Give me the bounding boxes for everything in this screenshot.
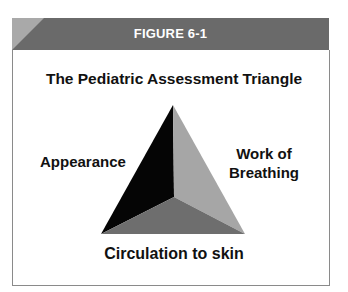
- circulation-label: Circulation to skin: [0, 244, 348, 263]
- work-of-breathing-line-2: Breathing: [229, 163, 299, 182]
- work-of-breathing-line-1: Work of: [229, 144, 299, 163]
- work-of-breathing-label: Work of Breathing: [229, 144, 299, 182]
- appearance-label: Appearance: [40, 152, 126, 171]
